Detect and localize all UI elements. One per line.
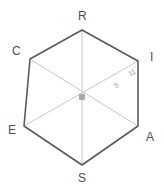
hexagon-diagram-svg	[0, 0, 164, 195]
vertex-label-I: I	[150, 51, 153, 63]
vertex-label-R: R	[78, 10, 87, 22]
vertex-label-A: A	[146, 131, 154, 143]
vertex-label-E: E	[8, 124, 16, 136]
center-point	[80, 95, 85, 100]
hexagon-figure: R I A S E C 5 11	[0, 0, 164, 195]
diagonal-E-I	[24, 61, 138, 126]
diagonal-C-A	[30, 59, 138, 126]
vertex-label-S: S	[78, 172, 86, 184]
vertex-label-C: C	[12, 45, 21, 57]
